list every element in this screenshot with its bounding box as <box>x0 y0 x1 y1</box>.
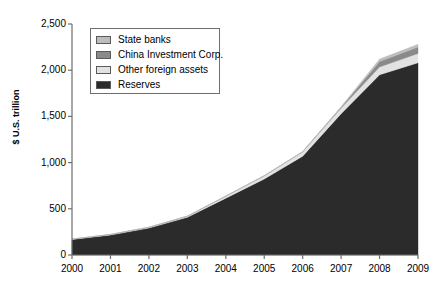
x-axis-tick-label: 2001 <box>90 263 130 274</box>
legend-swatch-icon <box>96 66 111 74</box>
x-axis-tick-label: 2004 <box>206 263 246 274</box>
chart-legend: State banksChina Investment Corp.Other f… <box>90 28 220 94</box>
y-axis-tick-label: 1,500 <box>26 111 66 121</box>
x-axis-tick-label: 2007 <box>321 263 361 274</box>
x-axis-tick-label: 2000 <box>52 263 92 274</box>
x-axis-tick-label: 2003 <box>167 263 207 274</box>
y-axis-tick-label: 0 <box>26 250 66 260</box>
x-axis-tick-label: 2009 <box>398 263 438 274</box>
y-axis-tick-label: 1,000 <box>26 158 66 168</box>
x-axis-tick-label: 2005 <box>244 263 284 274</box>
legend-item-label: Other foreign assets <box>118 65 208 75</box>
legend-item-label: China Investment Corp. <box>118 50 223 60</box>
x-axis-tick-label: 2006 <box>283 263 323 274</box>
legend-item: Other foreign assets <box>96 63 214 77</box>
legend-item-label: Reserves <box>118 80 160 90</box>
legend-swatch-icon <box>96 81 111 89</box>
x-axis-tick-label: 2008 <box>360 263 400 274</box>
y-axis-tick-label: 500 <box>26 204 66 214</box>
y-axis-title: $ U.S. trillion <box>11 57 21 177</box>
y-axis-tick-label: 2,500 <box>26 19 66 29</box>
legend-item: China Investment Corp. <box>96 48 214 62</box>
area-chart-plot <box>0 0 447 296</box>
x-axis-tick-label: 2002 <box>129 263 169 274</box>
legend-item: Reserves <box>96 78 214 92</box>
legend-item-label: State banks <box>118 35 171 45</box>
legend-swatch-icon <box>96 36 111 44</box>
legend-swatch-icon <box>96 51 111 59</box>
y-axis-tick-label: 2,000 <box>26 65 66 75</box>
chart-container: $ U.S. trillion 05001,0001,5002,0002,500… <box>0 0 447 296</box>
y-axis-tick-labels: 05001,0001,5002,0002,500 <box>24 0 66 296</box>
legend-item: State banks <box>96 33 214 47</box>
